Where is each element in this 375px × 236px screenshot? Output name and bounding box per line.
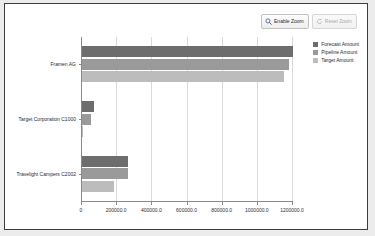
x-axis-tick-label: 1000000.0 xyxy=(245,207,269,213)
bar-2-0[interactable] xyxy=(82,156,128,167)
x-axis-tick xyxy=(187,202,188,205)
bar-1-1[interactable] xyxy=(82,114,91,125)
x-axis-tick-label: 200000.0 xyxy=(106,207,127,213)
bar-2-2[interactable] xyxy=(82,181,114,192)
x-axis-tick xyxy=(222,202,223,205)
bar-0-1[interactable] xyxy=(82,59,289,70)
chart-panel: Enable Zoom Reset Zoom Forecast AmountPi… xyxy=(4,3,368,230)
bar-chart-plot: Framen AGTarget Corporation C1000Traveli… xyxy=(5,4,369,231)
x-axis-tick xyxy=(292,202,293,205)
y-axis-tick xyxy=(79,64,82,65)
y-axis-tick xyxy=(79,119,82,120)
bar-1-2[interactable] xyxy=(82,126,83,137)
category-label: Target Corporation C1000 xyxy=(18,116,76,122)
bar-2-1[interactable] xyxy=(82,168,128,179)
x-axis-tick-label: 800000.0 xyxy=(211,207,232,213)
x-axis-tick-label: 0 xyxy=(80,207,83,213)
chart-gridline xyxy=(292,37,293,201)
x-axis-tick-label: 600000.0 xyxy=(176,207,197,213)
bar-1-0[interactable] xyxy=(82,101,94,112)
y-axis-tick xyxy=(79,174,82,175)
x-axis-tick-label: 400000.0 xyxy=(141,207,162,213)
x-axis-tick xyxy=(257,202,258,205)
x-axis-tick-label: 1200000.0 xyxy=(280,207,304,213)
bar-0-0[interactable] xyxy=(82,46,293,57)
x-axis-tick xyxy=(151,202,152,205)
bar-0-2[interactable] xyxy=(82,71,284,82)
category-label: Framen AG xyxy=(50,61,76,67)
category-label: Travelight Campers C2002 xyxy=(16,171,76,177)
x-axis-tick xyxy=(81,202,82,205)
x-axis-tick xyxy=(116,202,117,205)
